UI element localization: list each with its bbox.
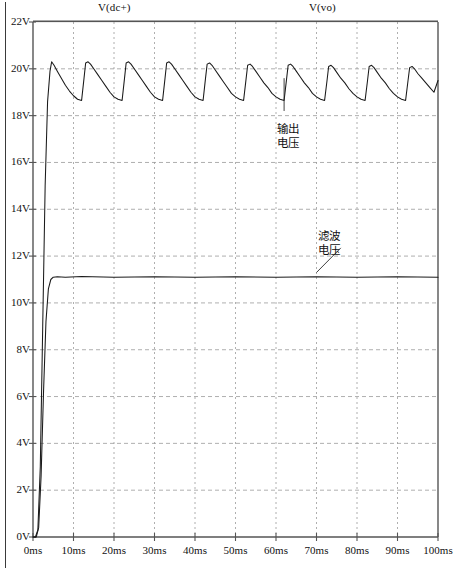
y-axis-tick-label: 4V [2,436,30,448]
y-axis-tick-label: 14V [2,202,30,214]
y-axis-tick-label: 10V [2,296,30,308]
x-axis-tick-label: 100ms [416,544,460,556]
grid-lines [33,22,438,537]
waveform-plot: V(dc+) V(vo) 输出 电压 滤波 电压 22V20V18V16V14V… [0,0,461,582]
annotation-filter-voltage: 滤波 电压 [318,229,340,257]
x-axis-tick-label: 0ms [11,544,55,556]
annotation-output-line1: 输出 [277,122,299,136]
x-axis-tick-label: 10ms [52,544,96,556]
x-axis-tick-label: 80ms [335,544,379,556]
y-axis-tick-label: 0V [2,530,30,542]
x-axis-tick-label: 50ms [214,544,258,556]
plot-canvas [0,0,461,582]
y-axis-tick-label: 12V [2,249,30,261]
y-axis-tick-label: 20V [2,62,30,74]
axis-top-border [33,21,438,23]
x-axis-tick-label: 60ms [254,544,298,556]
annotation-filter-line1: 滤波 [318,229,340,243]
y-axis-tick-label: 2V [2,483,30,495]
x-axis-tick-label: 40ms [173,544,217,556]
tick-marks [29,22,438,541]
x-axis-tick-label: 20ms [92,544,136,556]
annotation-filter-line2: 电压 [318,243,340,257]
x-axis-tick-label: 90ms [376,544,420,556]
y-axis-tick-label: 22V [2,15,30,27]
annotation-output-voltage: 输出 电压 [277,122,299,150]
x-axis-tick-label: 30ms [133,544,177,556]
annotation-output-line2: 电压 [277,136,299,150]
y-axis-tick-label: 16V [2,155,30,167]
x-axis-tick-label: 70ms [295,544,339,556]
y-axis-tick-label: 18V [2,109,30,121]
y-axis-tick-label: 8V [2,343,30,355]
y-axis-tick-label: 6V [2,390,30,402]
